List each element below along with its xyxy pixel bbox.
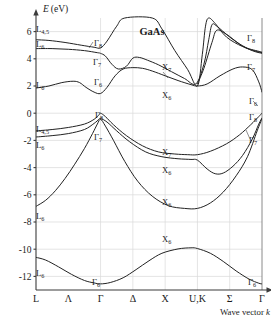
ann-l45-top-subscript: 4,5 [41, 28, 49, 35]
y-tick-label: -4 [24, 163, 32, 173]
ann-l6-upper-subscript: 6 [41, 43, 44, 50]
ann-g8-right-subscript: 8 [252, 37, 255, 44]
band-annotations: L4,5L6L6L4,5L6L6L6Γ8Γ7Γ6Γ8Γ7Γ6X7X6X7X6X6… [36, 24, 257, 288]
ann-x6-bottom-subscript: 6 [168, 238, 171, 245]
x-tick-label-: Σ [227, 293, 233, 304]
ann-g6-bottom: Γ6 [92, 277, 100, 288]
ann-g8-right: Γ8 [247, 33, 255, 44]
ann-l6-bottom-subscript: 6 [41, 272, 44, 279]
ann-x6-cb: X6 [162, 90, 171, 101]
ann-l6-vb: L6 [36, 140, 44, 151]
band-curves [36, 17, 262, 284]
y-tick-label: -10 [19, 245, 32, 255]
y-tick-group: 6420-2-4-6-8-10-12 [19, 27, 36, 282]
x-tick-label-: Γ [259, 293, 265, 304]
ann-x7-cb-subscript: 7 [168, 66, 171, 73]
x-axis-title: Wave vector k [220, 307, 271, 317]
x-tick-label-X: X [162, 293, 170, 304]
y-axis-title: E(eV) [42, 4, 68, 15]
band-curve-vb1 [36, 113, 262, 155]
ann-l6-vb-subscript: 6 [41, 144, 44, 151]
y-tick-label: -12 [19, 272, 32, 282]
x-tick-label-: Δ [130, 293, 137, 304]
x-tick-label-: Γ [98, 293, 104, 304]
y-tick-label: -2 [24, 136, 32, 146]
y-axis-arrowhead [33, 9, 38, 16]
y-tick-label: 6 [27, 27, 32, 37]
ann-l6-upper: L6 [36, 39, 44, 50]
band-structure-figure: 6420-2-4-6-8-10-12LΛΓΔXU,KΣΓE(eV)Wave ve… [0, 0, 271, 326]
ann-g8-vb-subscript: 8 [100, 114, 103, 121]
ann-g7-right-vb: Γ7 [249, 135, 257, 146]
y-axis-unit: (eV) [51, 4, 68, 15]
ann-g7-right-vb-subscript: 7 [254, 139, 257, 146]
x-tick-label-: Λ [65, 293, 73, 304]
x-tick-label-UK: U,K [189, 293, 207, 304]
band-curve-vb2 [36, 118, 262, 174]
x-tick-group: LΛΓΔXU,KΣΓ [33, 293, 265, 304]
ann-g7-cb-subscript: 7 [98, 61, 101, 68]
ann-g6-cb-subscript: 6 [99, 81, 102, 88]
ann-l45-top: L4,5 [36, 24, 49, 35]
ann-l6-cb: L6 [36, 80, 44, 91]
x-axis-arrowhead [267, 287, 272, 292]
band-curve-vb3 [36, 119, 262, 209]
ann-g6-right-bot-subscript: 6 [253, 281, 256, 288]
ann-l6-cb-subscript: 6 [41, 84, 44, 91]
ann-l45-vb: L4,5 [36, 124, 49, 135]
ann-l6-deep-subscript: 6 [41, 215, 44, 222]
ann-g8-right-vb: Γ8 [249, 112, 257, 123]
ann-x6-vb-subscript: 6 [168, 169, 171, 176]
y-tick-label: -6 [24, 190, 32, 200]
ann-g8-right-vb-subscript: 8 [254, 116, 257, 123]
y-tick-label: 0 [27, 109, 32, 119]
ann-g7-right: Γ7 [247, 62, 255, 73]
ann-g6-right: Γ6 [249, 96, 257, 107]
ann-l6-deep: L6 [36, 211, 44, 222]
ann-x6-vb: X6 [162, 165, 171, 176]
x-axis-symbol: k [266, 307, 271, 317]
ann-x7-cb: X7 [162, 62, 171, 73]
ann-l6-bottom: L6 [36, 268, 44, 279]
ann-l45-vb-subscript: 4,5 [41, 128, 49, 135]
y-tick-label: 4 [27, 54, 32, 64]
ann-g8-cb-subscript: 8 [99, 42, 102, 49]
material-label: GaAs [139, 26, 164, 37]
ann-g7-right-subscript: 7 [252, 66, 255, 73]
band-structure-plot: 6420-2-4-6-8-10-12LΛΓΔXU,KΣΓE(eV)Wave ve… [0, 0, 271, 326]
ann-g7-vb-subscript: 7 [99, 136, 102, 143]
ann-g6-bottom-subscript: 6 [97, 281, 100, 288]
y-tick-label: 2 [27, 81, 32, 91]
ann-g6-right-bot: Γ6 [248, 277, 256, 288]
x-tick-label-L: L [33, 293, 39, 304]
ann-x7-vb-subscript: 7 [168, 151, 171, 158]
leader-lines [89, 42, 258, 139]
ann-g8-vb: Γ8 [95, 110, 103, 121]
y-tick-label: -8 [24, 217, 32, 227]
band-curve-cb1 [36, 67, 262, 94]
gridlines [36, 18, 262, 290]
ann-x6-bottom: X6 [162, 234, 171, 245]
ann-x6-deep: X6 [162, 197, 171, 208]
ann-x6-deep-subscript: 6 [168, 201, 171, 208]
band-curve-vb4 [36, 248, 262, 284]
ann-x6-cb-subscript: 6 [168, 94, 171, 101]
ann-x7-vb: X7 [162, 147, 171, 158]
